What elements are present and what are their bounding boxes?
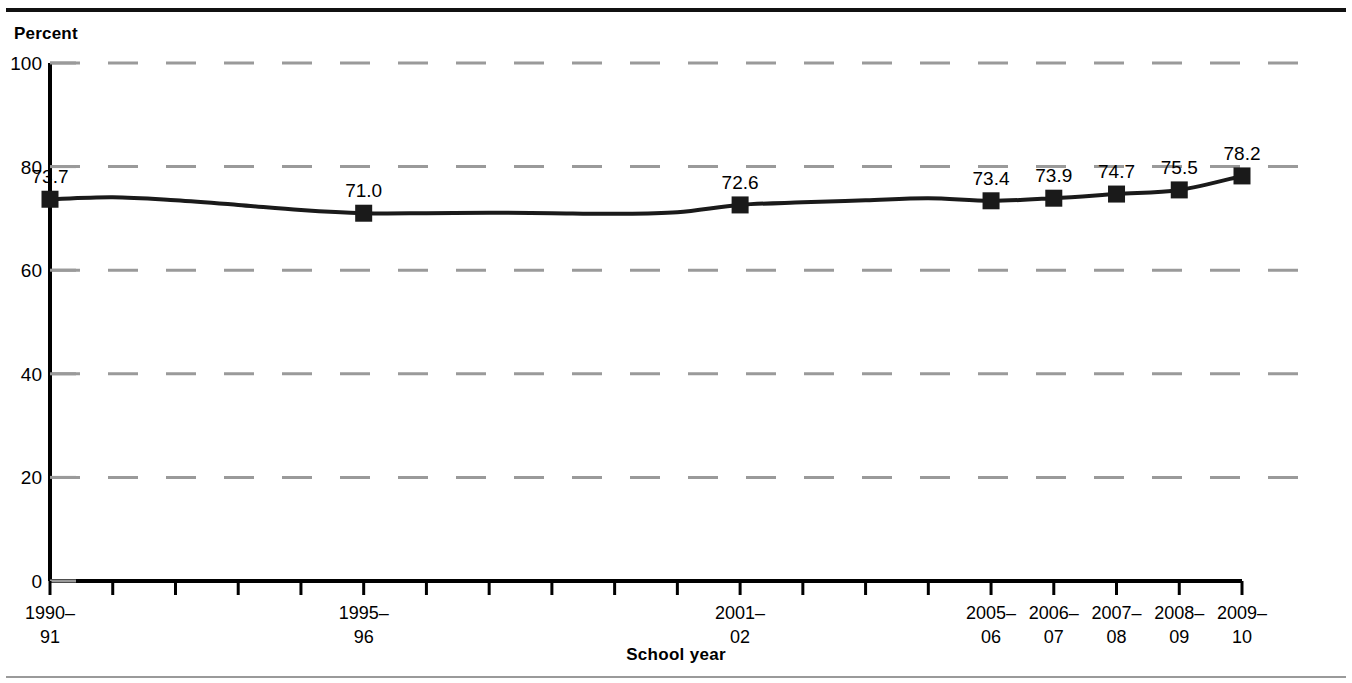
chart-figure: Percent 020406080100 1990–911995–962001–… bbox=[0, 0, 1352, 683]
y-tick-label: 100 bbox=[10, 53, 42, 74]
data-marker bbox=[1234, 167, 1251, 184]
x-tick-label-line2: 08 bbox=[1107, 627, 1127, 647]
data-label-group: 73.771.072.673.473.974.775.578.2 bbox=[32, 143, 1261, 201]
data-marker bbox=[355, 205, 372, 222]
y-tick-label: 0 bbox=[31, 571, 42, 592]
x-tick-label-line1: 2005– bbox=[966, 603, 1016, 623]
line-chart-plot: 020406080100 1990–911995–962001–022005–0… bbox=[0, 0, 1352, 683]
x-tick-label-line1: 1995– bbox=[339, 603, 389, 623]
x-tick-label-line2: 10 bbox=[1232, 627, 1252, 647]
y-tick-label: 40 bbox=[21, 364, 42, 385]
gridlines-group bbox=[50, 63, 1300, 477]
x-tick-label-line1: 2006– bbox=[1029, 603, 1079, 623]
x-tick-label-line1: 1990– bbox=[25, 603, 75, 623]
data-marker bbox=[1171, 181, 1188, 198]
x-tick-label-line2: 07 bbox=[1044, 627, 1064, 647]
y-tick-label: 20 bbox=[21, 467, 42, 488]
y-tick-group: 020406080100 bbox=[10, 53, 76, 592]
data-point-label: 73.7 bbox=[32, 166, 69, 187]
data-marker bbox=[983, 192, 1000, 209]
x-tick-label-line1: 2001– bbox=[715, 603, 765, 623]
x-tick-group bbox=[50, 581, 1242, 595]
x-axis-title: School year bbox=[0, 645, 1352, 665]
axes-group bbox=[50, 63, 1242, 581]
data-point-label: 78.2 bbox=[1224, 143, 1261, 164]
data-marker bbox=[42, 191, 59, 208]
x-tick-label-line2: 91 bbox=[40, 627, 60, 647]
x-tick-label-group: 1990–911995–962001–022005–062006–072007–… bbox=[25, 603, 1267, 647]
x-tick-label-line2: 06 bbox=[981, 627, 1001, 647]
x-tick-label-line2: 96 bbox=[354, 627, 374, 647]
x-tick-label-line2: 02 bbox=[730, 627, 750, 647]
data-point-label: 73.9 bbox=[1035, 165, 1072, 186]
bottom-divider-rule bbox=[6, 676, 1346, 678]
y-tick-label: 60 bbox=[21, 260, 42, 281]
data-marker bbox=[732, 196, 749, 213]
data-point-label: 74.7 bbox=[1098, 161, 1135, 182]
x-tick-label-line2: 09 bbox=[1169, 627, 1189, 647]
data-point-label: 75.5 bbox=[1161, 157, 1198, 178]
x-tick-label-line1: 2009– bbox=[1217, 603, 1267, 623]
data-marker bbox=[1045, 190, 1062, 207]
x-tick-label-line1: 2007– bbox=[1091, 603, 1141, 623]
data-point-label: 72.6 bbox=[722, 172, 759, 193]
data-point-label: 71.0 bbox=[345, 180, 382, 201]
x-tick-label-line1: 2008– bbox=[1154, 603, 1204, 623]
data-marker bbox=[1108, 186, 1125, 203]
data-point-label: 73.4 bbox=[973, 168, 1010, 189]
